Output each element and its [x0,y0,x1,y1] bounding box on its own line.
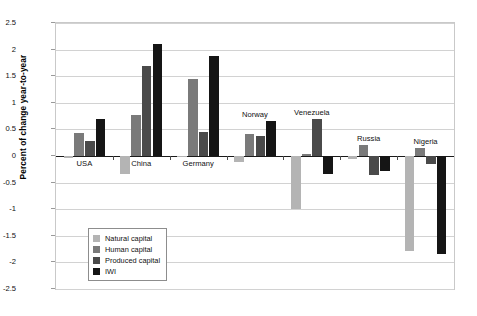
bar-group: Norway [227,23,284,289]
y-axis-tick-mark [51,22,55,23]
bar [177,156,187,157]
bar-group: Russia [340,23,397,289]
y-axis-tick-label: -2.5 [0,284,16,293]
bar [415,148,425,156]
y-axis-tick-label: -1.5 [0,231,16,240]
bar [291,156,301,209]
y-axis-tick-label: 1.5 [0,71,16,80]
y-axis-tick-mark [51,261,55,262]
bar [323,156,333,174]
y-axis-tick-label: 2 [0,45,16,54]
bar [256,136,266,156]
y-axis-tick-mark [51,182,55,183]
x-axis-group-label: China [113,159,170,168]
y-axis-tick-label: 1 [0,98,16,107]
bar [188,79,198,156]
bar [405,156,415,251]
y-axis-tick-label: -1 [0,204,16,213]
legend-item-label: Produced capital [105,256,160,265]
y-axis-tick-mark [51,75,55,76]
bar [64,156,74,158]
y-axis-tick-mark [51,102,55,103]
y-axis-title: Percent of change year-to-year [18,32,28,202]
legend-item-label: Natural capital [105,234,152,243]
y-axis-tick-mark [51,235,55,236]
bar [348,156,358,159]
legend-swatch-icon [93,246,100,253]
legend-item: Human capital [93,244,160,254]
y-axis-tick-mark [51,208,55,209]
bar [199,132,209,156]
x-axis-group-label: Norway [227,110,284,119]
bar [369,156,379,175]
gridline [56,289,454,290]
bar [142,66,152,156]
legend-swatch-icon [93,235,100,242]
bar [85,141,95,156]
bar [153,44,163,156]
y-axis-tick-label: 2.5 [0,18,16,27]
y-axis-tick-mark [51,288,55,289]
bar [359,145,369,156]
bar [209,56,219,156]
x-axis-group-label: Germany [170,159,227,168]
x-axis-group-label: USA [56,159,113,168]
y-axis-tick-label: 0.5 [0,124,16,133]
y-axis-tick-label: -0.5 [0,178,16,187]
legend-item-label: Human capital [105,245,152,254]
bar [245,134,255,156]
x-axis-group-label: Russia [340,134,397,143]
bar [74,133,84,156]
legend-swatch-icon [93,268,100,275]
chart-legend: Natural capitalHuman capitalProduced cap… [88,228,167,281]
bar-group: Venezuela [283,23,340,289]
bar [302,154,312,156]
y-axis-tick-mark [51,155,55,156]
bar [266,121,276,156]
legend-item: Produced capital [93,255,160,265]
chart-container: Percent of change year-to-year 2.521.510… [0,0,477,316]
legend-swatch-icon [93,257,100,264]
legend-item-label: IWI [105,267,116,276]
legend-item: IWI [93,266,160,276]
y-axis-tick-mark [51,128,55,129]
bar-group: Nigeria [397,23,454,289]
y-axis-tick-label: -2 [0,257,16,266]
bar [380,156,390,171]
x-axis-group-label: Nigeria [397,137,454,146]
bar [96,119,106,156]
bar [312,119,322,156]
y-axis-tick-label: 0 [0,151,16,160]
bar [437,156,447,254]
legend-item: Natural capital [93,233,160,243]
y-axis-tick-mark [51,49,55,50]
bar [131,115,141,156]
bar-group: Germany [170,23,227,289]
x-axis-group-label: Venezuela [283,108,340,117]
bar [234,156,244,162]
bar [426,156,436,164]
